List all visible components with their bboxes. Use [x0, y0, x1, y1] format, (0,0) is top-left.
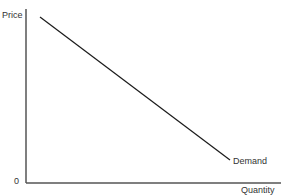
y-axis-label: Price	[2, 10, 23, 20]
origin-label: 0	[14, 176, 19, 186]
demand-curve-label: Demand	[233, 156, 267, 166]
x-axis-label: Quantity	[241, 185, 275, 195]
demand-curve	[40, 17, 230, 160]
